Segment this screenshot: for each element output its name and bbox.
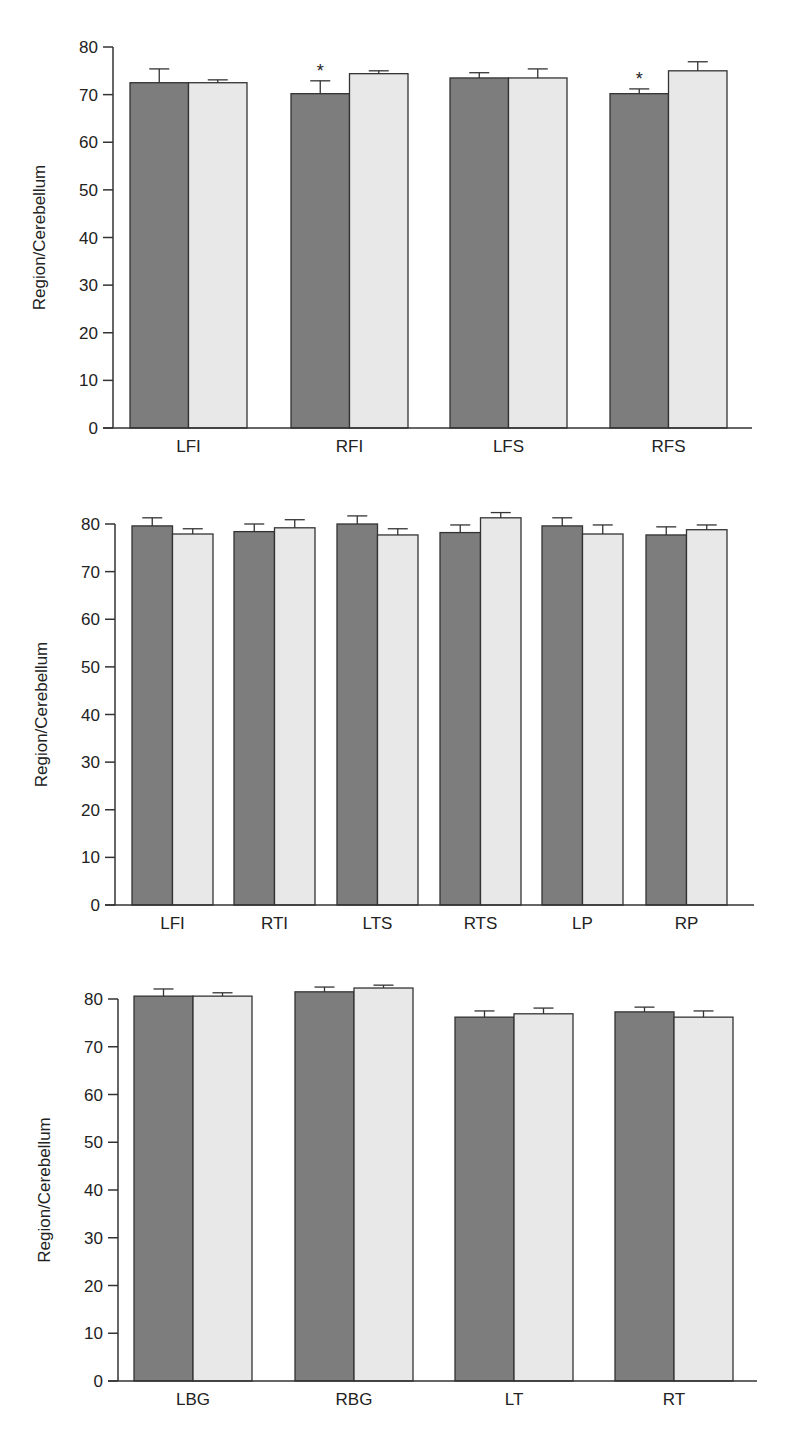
bar-rfi-series-2 (350, 74, 409, 428)
bar-lp-series-2 (583, 534, 624, 905)
bar-group-rbg (295, 985, 413, 1381)
bar-group-rt (615, 1007, 733, 1381)
y-tick-label: 50 (84, 1133, 103, 1152)
bar-lt-series-1 (455, 1017, 514, 1381)
bar-group-rfs (610, 62, 727, 428)
bar-lts-series-1 (337, 524, 378, 905)
x-tick-label: LTS (363, 914, 393, 933)
y-axis-label: Region/Cerebellum (30, 165, 49, 311)
y-tick-label: 40 (79, 229, 98, 248)
x-tick-label: RT (663, 1390, 685, 1409)
bar-group-rp (646, 525, 727, 905)
x-tick-label: RFS (652, 437, 686, 456)
bar-group-lt (455, 1008, 573, 1381)
bar-rfi-series-1 (291, 94, 350, 428)
bar-chart-frontal: LFIRFILFSRFS**01020304050607080Region/Ce… (0, 0, 794, 470)
bar-group-lfi (132, 518, 213, 905)
bar-group-rfi (291, 71, 408, 428)
bar-lfs-series-2 (509, 78, 568, 428)
y-tick-label: 40 (84, 1181, 103, 1200)
bar-chart-temporal-parietal: LFIRTILTSRTSLPRP01020304050607080Region/… (0, 470, 794, 970)
y-tick-label: 20 (84, 1277, 103, 1296)
bar-lfs-series-1 (450, 78, 509, 428)
bar-group-lbg (134, 989, 252, 1381)
chart-panel-frontal: LFIRFILFSRFS**01020304050607080Region/Ce… (0, 0, 794, 470)
bar-lbg-series-2 (193, 996, 252, 1381)
bar-rts-series-1 (440, 533, 481, 905)
y-tick-label: 60 (84, 1086, 103, 1105)
significance-asterisk: * (317, 61, 324, 81)
x-tick-label: LFI (160, 914, 185, 933)
bar-lp-series-1 (542, 526, 583, 905)
y-tick-label: 50 (81, 658, 100, 677)
bar-group-lfi (130, 69, 247, 428)
y-tick-label: 80 (81, 515, 100, 534)
y-tick-label: 10 (79, 371, 98, 390)
bar-lbg-series-1 (134, 996, 193, 1381)
bar-rt-series-1 (615, 1012, 674, 1381)
y-tick-label: 30 (81, 753, 100, 772)
chart-panel-basal-ganglia-thalamus: LBGRBGLTRT01020304050607080Region/Cerebe… (0, 970, 794, 1432)
y-axis-label: Region/Cerebellum (32, 642, 51, 788)
bar-group-rti (234, 520, 315, 905)
bar-lt-series-2 (514, 1014, 573, 1381)
bar-rti-series-2 (275, 528, 316, 905)
y-tick-label: 40 (81, 706, 100, 725)
bar-rbg-series-2 (354, 988, 413, 1381)
x-tick-label: RBG (336, 1390, 373, 1409)
bar-rp-series-1 (646, 535, 687, 905)
y-tick-label: 70 (79, 86, 98, 105)
x-tick-label: RP (675, 914, 699, 933)
y-tick-label: 60 (81, 610, 100, 629)
bar-group-rts (440, 513, 521, 905)
x-tick-label: LP (572, 914, 593, 933)
bar-group-lfs (450, 69, 567, 428)
y-tick-label: 10 (84, 1324, 103, 1343)
significance-asterisk: * (636, 69, 643, 89)
x-tick-label: LBG (176, 1390, 210, 1409)
y-axis-label: Region/Cerebellum (35, 1117, 54, 1263)
y-tick-label: 70 (81, 563, 100, 582)
x-tick-label: RTI (261, 914, 288, 933)
y-tick-label: 50 (79, 181, 98, 200)
y-tick-label: 0 (94, 1372, 103, 1391)
y-tick-label: 0 (89, 419, 98, 438)
bar-rti-series-1 (234, 532, 275, 905)
bar-rfs-series-1 (610, 94, 669, 428)
y-tick-label: 10 (81, 848, 100, 867)
y-tick-label: 80 (79, 38, 98, 57)
bar-rt-series-2 (674, 1017, 733, 1381)
y-tick-label: 20 (79, 324, 98, 343)
x-tick-label: LT (505, 1390, 524, 1409)
bar-lfi-series-2 (173, 534, 214, 905)
y-tick-label: 30 (79, 276, 98, 295)
y-tick-label: 20 (81, 801, 100, 820)
y-tick-label: 60 (79, 133, 98, 152)
bar-chart-basal-ganglia-thalamus: LBGRBGLTRT01020304050607080Region/Cerebe… (0, 970, 794, 1432)
chart-panel-temporal-parietal: LFIRTILTSRTSLPRP01020304050607080Region/… (0, 470, 794, 970)
bar-lfi-series-1 (130, 83, 189, 428)
y-tick-label: 70 (84, 1038, 103, 1057)
x-tick-label: LFI (176, 437, 201, 456)
y-tick-label: 30 (84, 1229, 103, 1248)
y-tick-label: 0 (91, 896, 100, 915)
x-tick-label: LFS (493, 437, 524, 456)
bar-group-lts (337, 516, 418, 905)
bar-rfs-series-2 (669, 71, 728, 428)
bar-lts-series-2 (378, 535, 419, 905)
bar-rbg-series-1 (295, 992, 354, 1381)
x-tick-label: RFI (336, 437, 363, 456)
bar-lfi-series-2 (189, 83, 248, 428)
bar-group-lp (542, 518, 623, 905)
bar-rts-series-2 (481, 518, 522, 905)
bar-lfi-series-1 (132, 526, 173, 905)
x-tick-label: RTS (464, 914, 498, 933)
y-tick-label: 80 (84, 990, 103, 1009)
bar-rp-series-2 (687, 530, 728, 905)
